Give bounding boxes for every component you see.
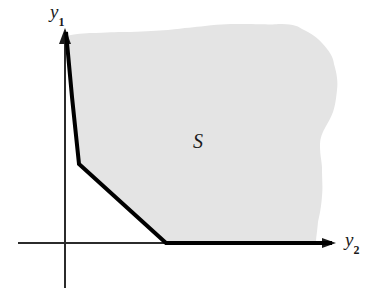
region-label-s: S	[193, 130, 203, 153]
vertical-axis-label: y1	[50, 2, 64, 25]
diagram-svg	[0, 0, 377, 292]
figure-canvas: y1 y2 S	[0, 0, 377, 292]
vertical-axis-label-subscript: 1	[58, 15, 64, 29]
horizontal-axis-label: y2	[345, 230, 359, 253]
horizontal-axis-label-subscript: 2	[353, 243, 359, 257]
